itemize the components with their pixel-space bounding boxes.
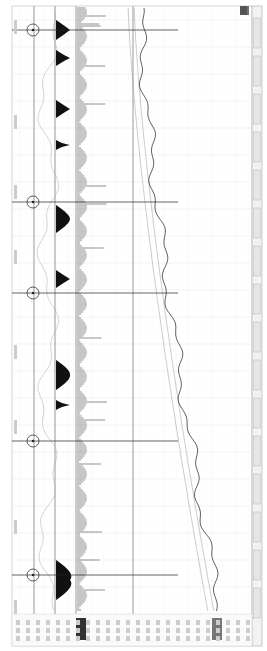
toolbar-button[interactable] [254, 360, 261, 390]
toolbar-button[interactable] [254, 322, 261, 352]
toolbar-button[interactable] [254, 550, 261, 580]
toolbar-button[interactable] [254, 208, 261, 238]
toolbar-button[interactable] [254, 398, 261, 428]
toolbar-button[interactable] [254, 588, 261, 618]
toolbar-button[interactable] [254, 284, 261, 314]
toolbar-button[interactable] [254, 18, 261, 48]
corner-button[interactable] [240, 6, 249, 15]
toolbar-button[interactable] [254, 56, 261, 86]
chart-frame [12, 6, 252, 646]
toolbar-button[interactable] [254, 436, 261, 466]
toolbar-button[interactable] [254, 474, 261, 504]
toolbar-button[interactable] [254, 132, 261, 162]
toolbar-button[interactable] [254, 246, 261, 276]
toolbar-button[interactable] [254, 94, 261, 124]
toolbar-button[interactable] [254, 512, 261, 542]
toolbar-button[interactable] [254, 170, 261, 200]
stock-chart [0, 0, 267, 651]
chart-canvas[interactable] [0, 0, 267, 651]
